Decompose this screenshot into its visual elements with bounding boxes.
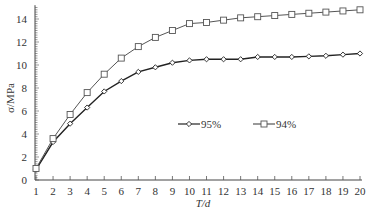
y-tick-label: 0 — [22, 174, 28, 186]
square-marker-icon — [33, 166, 39, 172]
x-tick-label: 10 — [184, 185, 196, 197]
diamond-marker-icon — [238, 57, 243, 62]
y-tick-label: 14 — [16, 13, 28, 25]
y-tick-label: 8 — [22, 82, 28, 94]
diamond-marker-icon — [136, 69, 141, 74]
legend-square-icon — [261, 121, 267, 127]
square-marker-icon — [186, 21, 192, 27]
axes: 0246810121412345678910111213141516171819… — [16, 5, 366, 197]
x-tick-label: 16 — [286, 185, 298, 197]
square-marker-icon — [221, 17, 227, 23]
x-tick-label: 5 — [101, 185, 107, 197]
diamond-marker-icon — [221, 57, 226, 62]
square-marker-icon — [135, 44, 141, 50]
diamond-marker-icon — [204, 57, 209, 62]
x-tick-label: 6 — [119, 185, 125, 197]
square-marker-icon — [289, 11, 295, 17]
x-tick-label: 8 — [153, 185, 159, 197]
x-tick-label: 7 — [136, 185, 142, 197]
diamond-marker-icon — [357, 51, 362, 56]
x-tick-label: 2 — [50, 185, 56, 197]
x-tick-label: 19 — [337, 185, 349, 197]
square-marker-icon — [340, 8, 346, 14]
x-tick-label: 14 — [252, 185, 264, 197]
y-tick-label: 10 — [16, 59, 28, 71]
x-tick-label: 11 — [201, 185, 212, 197]
square-marker-icon — [238, 15, 244, 21]
square-marker-icon — [84, 90, 90, 96]
square-marker-icon — [152, 34, 158, 40]
diamond-marker-icon — [340, 52, 345, 57]
diamond-marker-icon — [323, 53, 328, 58]
diamond-marker-icon — [187, 58, 192, 63]
y-tick-label: 6 — [22, 105, 28, 117]
diamond-marker-icon — [170, 60, 175, 65]
square-marker-icon — [255, 14, 261, 20]
x-tick-label: 17 — [303, 185, 315, 197]
diamond-marker-icon — [272, 54, 277, 59]
y-tick-label: 12 — [16, 36, 27, 48]
y-tick-label: 4 — [22, 128, 28, 140]
x-tick-label: 12 — [218, 185, 229, 197]
legend-diamond-icon — [186, 121, 191, 126]
series-group — [33, 7, 363, 172]
x-tick-label: 20 — [355, 185, 367, 197]
x-tick-label: 1 — [33, 185, 39, 197]
legend-label: 95% — [201, 118, 221, 130]
x-tick-label: 13 — [235, 185, 247, 197]
square-marker-icon — [50, 136, 56, 142]
x-axis-label: T/d — [196, 197, 211, 209]
x-tick-label: 3 — [67, 185, 73, 197]
square-marker-icon — [204, 19, 210, 25]
x-tick-label: 4 — [84, 185, 90, 197]
square-marker-icon — [272, 13, 278, 19]
x-tick-label: 15 — [269, 185, 281, 197]
square-marker-icon — [306, 10, 312, 16]
x-tick-label: 9 — [170, 185, 176, 197]
diamond-marker-icon — [255, 54, 260, 59]
y-axis-label: σ/MPa — [4, 83, 16, 113]
diamond-marker-icon — [289, 54, 294, 59]
x-tick-label: 18 — [320, 185, 332, 197]
square-marker-icon — [118, 55, 124, 61]
diamond-marker-icon — [153, 65, 158, 70]
legend-label: 94% — [276, 118, 296, 130]
square-marker-icon — [101, 71, 107, 77]
square-marker-icon — [67, 111, 73, 117]
diamond-marker-icon — [306, 54, 311, 59]
legend: 95%94% — [178, 118, 296, 130]
y-tick-label: 2 — [22, 151, 28, 163]
line-chart: 0246810121412345678910111213141516171819… — [0, 0, 370, 218]
square-marker-icon — [323, 9, 329, 15]
series-line-95% — [36, 54, 360, 170]
square-marker-icon — [169, 28, 175, 34]
square-marker-icon — [357, 7, 363, 13]
